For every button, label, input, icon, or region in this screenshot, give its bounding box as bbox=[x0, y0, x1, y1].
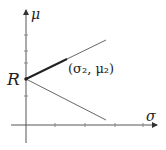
point-label: (σ₂, μ₂) bbox=[68, 61, 114, 76]
lower-frontier-line bbox=[26, 79, 106, 120]
point-r bbox=[24, 77, 28, 81]
x-axis-label: σ bbox=[146, 108, 156, 124]
segment-r-to-point bbox=[26, 59, 67, 79]
diagram-canvas: μ σ R (σ₂, μ₂) bbox=[0, 0, 166, 150]
y-axis-label: μ bbox=[31, 6, 40, 22]
origin-label: R bbox=[6, 69, 20, 89]
